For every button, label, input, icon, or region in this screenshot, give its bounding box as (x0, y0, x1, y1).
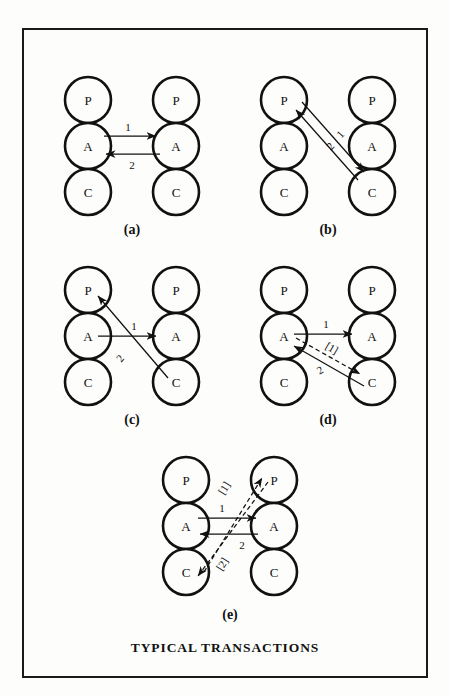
panel-b: P A C P A C 1 2 (b) (248, 72, 408, 242)
arrow-label-1: 1 (334, 128, 347, 140)
ego-label-right-adult: A (367, 329, 377, 344)
ego-label-left-parent: P (84, 283, 91, 298)
ego-label-left-child: C (182, 565, 191, 580)
ego-label-right-adult: A (269, 519, 279, 534)
ego-label-right-parent: P (368, 93, 375, 108)
ego-label-right-parent: P (368, 283, 375, 298)
ego-label-right-parent: P (270, 473, 277, 488)
panel-d: P A C P A C 1 [1] 2 (d) (248, 262, 408, 432)
ego-label-left-child: C (280, 375, 289, 390)
figure-caption: TYPICAL TRANSACTIONS (0, 640, 450, 656)
ego-label-right-child: C (368, 185, 377, 200)
arrow-label-2: 2 (324, 140, 337, 152)
ego-label-left-parent: P (84, 93, 91, 108)
ego-label-left-adult: A (279, 139, 289, 154)
arrow-label-2: 2 (239, 539, 245, 551)
arrow-label-2: 2 (114, 352, 127, 364)
ego-label-left-parent: P (182, 473, 189, 488)
arrow-label-1: 1 (323, 318, 329, 330)
panel-caption-d: (d) (248, 412, 408, 428)
ego-label-right-child: C (270, 565, 279, 580)
ego-label-right-adult: A (171, 139, 181, 154)
figure-page: P A C P A C 1 2 (a) (0, 0, 450, 696)
arrow-label-2: 2 (315, 363, 326, 376)
arrow-label-ulterior-1: [1] (323, 340, 340, 357)
arrow-label-ulterior-1: [1] (216, 479, 233, 496)
ego-label-left-parent: P (280, 93, 287, 108)
ego-label-left-adult: A (181, 519, 191, 534)
arrow-label-1: 1 (219, 502, 225, 514)
arrow-label-ulterior-2: [2] (214, 555, 231, 572)
ego-label-left-adult: A (83, 329, 93, 344)
ego-label-left-adult: A (279, 329, 289, 344)
panel-e: P A C P A C 1 2 [1] [2] (e) (150, 452, 310, 627)
arrow-label-1: 1 (131, 320, 137, 332)
ego-label-right-adult: A (171, 329, 181, 344)
panel-caption-e: (e) (150, 607, 310, 623)
panel-caption-b: (b) (248, 222, 408, 238)
ego-label-left-child: C (280, 185, 289, 200)
panel-caption-a: (a) (52, 222, 212, 238)
ego-label-right-child: C (368, 375, 377, 390)
ego-label-right-adult: A (367, 139, 377, 154)
ego-label-left-child: C (84, 375, 93, 390)
ego-label-left-adult: A (83, 139, 93, 154)
ego-label-right-child: C (172, 375, 181, 390)
arrow-label-2: 2 (129, 159, 135, 171)
ego-label-right-parent: P (172, 283, 179, 298)
panel-a: P A C P A C 1 2 (a) (52, 72, 212, 242)
ego-label-right-parent: P (172, 93, 179, 108)
ego-label-left-parent: P (280, 283, 287, 298)
panel-c: P A C P A C 1 2 (c) (52, 262, 212, 432)
ego-label-right-child: C (172, 185, 181, 200)
arrow-label-1: 1 (125, 121, 131, 133)
panel-caption-c: (c) (52, 412, 212, 428)
ego-label-left-child: C (84, 185, 93, 200)
